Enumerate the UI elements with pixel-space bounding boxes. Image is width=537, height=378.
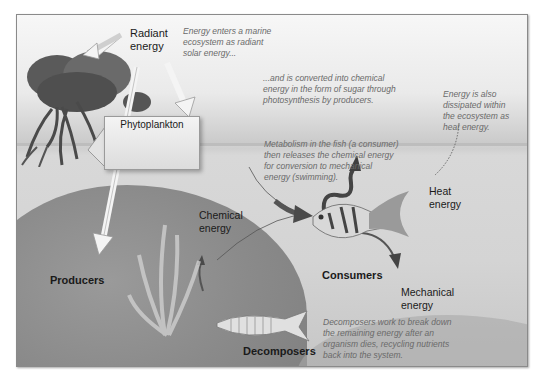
note-line: the remaining energy after an: [323, 328, 452, 339]
phytoplankton-label: Phytoplankton: [105, 119, 199, 130]
decomposer-skeleton-fish-illustration: [217, 311, 309, 341]
radiant-energy-label: Radiant energy: [130, 27, 168, 53]
note-line: solar energy...: [183, 48, 271, 59]
note-line: then releases the chemical energy: [264, 150, 399, 161]
decomposers-label: Decomposers: [243, 345, 316, 358]
chemical-energy-label-line1: Chemical: [199, 209, 243, 222]
phytoplankton-callout-pointer: [88, 127, 105, 167]
decomposer-to-chemical-arrow-icon: [197, 255, 205, 291]
note-line: energy (swimming).: [264, 172, 399, 183]
note-line: organism dies, recycling nutrients: [323, 339, 452, 350]
note-line: Metabolism in the fish (a consumer): [264, 139, 399, 150]
note-heat-dissipation: Energy is also dissipated within the eco…: [443, 89, 509, 133]
phytoplankton-box: Phytoplankton: [104, 116, 200, 170]
mechanical-energy-arrow-icon: [362, 233, 401, 269]
mechanical-energy-label-line2: energy: [401, 299, 454, 312]
radiant-energy-label-line1: Radiant: [130, 27, 168, 40]
note-line: ...and is converted into chemical: [263, 73, 396, 84]
mechanical-energy-label: Mechanical energy: [401, 286, 454, 312]
note-line: ecosystem as radiant: [183, 37, 271, 48]
producers-label: Producers: [50, 274, 104, 287]
consumers-label: Consumers: [322, 269, 383, 282]
note-line: Decomposers work to break down: [323, 317, 452, 328]
note-line: dissipated within: [443, 100, 509, 111]
chemical-energy-label-line2: energy: [199, 222, 243, 235]
diagram-frame: Phytoplankton Radiant energy Producers C…: [16, 14, 528, 367]
note-line: energy in the form of sugar through: [263, 84, 396, 95]
note-metabolism: Metabolism in the fish (a consumer) then…: [264, 139, 399, 183]
heat-energy-label-line1: Heat: [429, 185, 461, 198]
note-solar-energy: Energy enters a marine ecosystem as radi…: [183, 26, 271, 59]
note-line: the ecosystem as: [443, 111, 509, 122]
heat-energy-label-line2: energy: [429, 198, 461, 211]
note-line: Energy is also: [443, 89, 509, 100]
note-line: Energy enters a marine: [183, 26, 271, 37]
radiant-arrow-to-phytoplankton-icon: [167, 63, 195, 117]
note-line: for conversion to mechanical: [264, 161, 399, 172]
note-line: heat energy.: [443, 122, 509, 133]
mechanical-energy-label-line1: Mechanical: [401, 286, 454, 299]
note-decomposition: Decomposers work to break down the remai…: [323, 317, 452, 361]
chemical-energy-label: Chemical energy: [199, 209, 243, 235]
radiant-arrow-to-tree-icon: [83, 35, 121, 59]
heat-energy-label: Heat energy: [429, 185, 461, 211]
note-line: photosynthesis by producers.: [263, 95, 396, 106]
radiant-energy-label-line2: energy: [130, 40, 168, 53]
note-photosynthesis: ...and is converted into chemical energy…: [263, 73, 396, 106]
seaweed-illustration: [129, 225, 199, 335]
note-line: back into the system.: [323, 350, 452, 361]
